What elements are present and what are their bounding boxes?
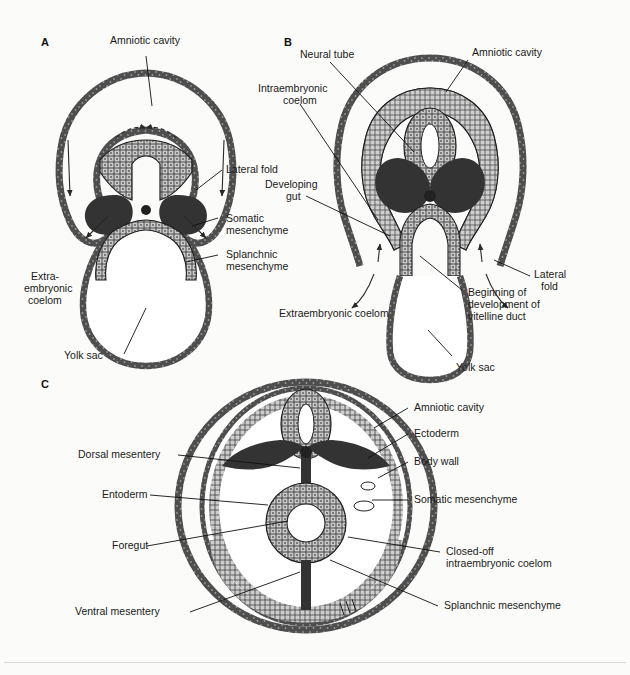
label-b-vitelline-duct-line3: vitelline duct: [468, 310, 526, 322]
panel-a: A Amniotic cavity Lateral fold So: [24, 34, 289, 366]
folding-arrow-left-b: [352, 274, 374, 308]
label-a-extraembryonic-coelom-line1: Extra-: [31, 270, 60, 282]
panel-b-letter: B: [284, 36, 292, 48]
label-c-closed-off-coelom-line1: Closed-off: [446, 545, 494, 557]
label-c-body-wall: Body wall: [414, 455, 459, 467]
embryo-folding-figure: A Amniotic cavity Lateral fold So: [0, 0, 630, 675]
label-b-yolk-sac: Yolk sac: [456, 361, 495, 373]
label-a-extraembryonic-coelom-line2: embryonic: [24, 282, 72, 294]
label-a-extraembryonic-coelom-line3: coelom: [28, 294, 62, 306]
label-a-lateral-fold: Lateral fold: [226, 163, 278, 175]
label-b-intraembryonic-coelom-line2: coelom: [283, 94, 317, 106]
label-c-somatic-mesenchyme: Somatic mesenchyme: [414, 493, 517, 505]
label-a-splanchnic-mesenchyme-line2: mesenchyme: [226, 260, 289, 272]
label-a-somatic-mesenchyme-line2: mesenchyme: [226, 224, 289, 236]
label-b-lateral-fold-line2: fold: [541, 280, 558, 292]
label-c-ectoderm: Ectoderm: [414, 427, 459, 439]
folding-arrow-right: [222, 140, 224, 196]
folding-arrow-up-left-b: [378, 244, 380, 262]
label-b-intraembryonic-coelom-line1: Intraembryonic: [258, 82, 327, 94]
label-c-foregut: Foregut: [112, 539, 148, 551]
label-b-extraembryonic-coelom: Extraembryonic coelom: [279, 307, 389, 319]
neural-canal-c: [298, 404, 314, 444]
leader-b-lateral-fold: [494, 260, 530, 276]
label-b-lateral-fold-line1: Lateral: [534, 268, 566, 280]
panel-b: B Neural tube Amniotic: [258, 36, 566, 380]
folding-arrow-left: [68, 140, 70, 196]
foregut-lumen-c: [287, 504, 325, 542]
label-c-amniotic-cavity: Amniotic cavity: [414, 401, 485, 413]
label-a-yolk-sac: Yolk sac: [64, 349, 103, 361]
leader-a-lateral-fold: [196, 170, 222, 190]
label-c-dorsal-mesentery: Dorsal mesentery: [78, 448, 161, 460]
notochord: [141, 205, 151, 215]
panel-c: C: [41, 378, 561, 630]
folding-arrow-up-right-b: [480, 244, 482, 262]
panel-c-letter: C: [41, 378, 49, 390]
label-c-closed-off-coelom-line2: intraembryonic coelom: [446, 557, 552, 569]
label-b-vitelline-duct-line2: development of: [468, 298, 540, 310]
label-c-ventral-mesentery: Ventral mesentery: [75, 605, 160, 617]
developing-gut-b: [400, 204, 460, 276]
label-b-neural-tube: Neural tube: [300, 48, 354, 60]
label-c-splanchnic-mesenchyme: Splanchnic mesenchyme: [444, 599, 561, 611]
ventral-mesentery-c: [301, 560, 311, 610]
label-a-splanchnic-mesenchyme-line1: Splanchnic: [226, 248, 277, 260]
label-b-developing-gut-line2: gut: [286, 190, 301, 202]
label-a-amniotic-cavity: Amniotic cavity: [110, 34, 181, 46]
leader-a-amniotic-cavity: [146, 56, 152, 106]
panel-a-letter: A: [41, 36, 49, 48]
neural-canal: [421, 124, 439, 168]
label-b-developing-gut-line1: Developing: [265, 178, 318, 190]
label-c-entoderm: Entoderm: [102, 488, 148, 500]
figure-root: A Amniotic cavity Lateral fold So: [0, 0, 630, 675]
label-b-vitelline-duct-line1: Beginning of: [468, 286, 526, 298]
notochord-b: [424, 190, 436, 202]
neural-groove-epithelium: [100, 140, 192, 200]
notochord-c: [300, 446, 312, 458]
label-b-amniotic-cavity: Amniotic cavity: [472, 46, 543, 58]
label-a-somatic-mesenchyme-line1: Somatic: [226, 212, 264, 224]
